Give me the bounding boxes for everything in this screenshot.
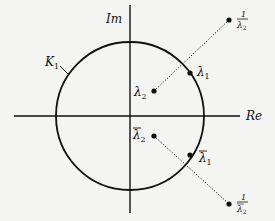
svg-text:λ2: λ2 [236, 204, 247, 215]
point-inv-lambda2 [226, 17, 231, 22]
point-lambda1-conj [187, 152, 192, 157]
svg-text:1: 1 [241, 193, 246, 202]
inv-lambda2-conj-label: 1 λ2 [236, 193, 248, 215]
point-lambda1 [187, 70, 192, 75]
lambda2-label: λ2 [133, 85, 147, 101]
point-inv-lambda2-conj [226, 201, 231, 206]
svg-text:λ2: λ2 [236, 20, 247, 31]
k1-leader-line [60, 66, 68, 74]
circle-label: K1 [44, 55, 59, 71]
inv-lambda2-label: 1 λ2 [236, 10, 248, 31]
complex-plane-diagram: Re Im K1 λ2 λ1 λ2 λ1 1 λ2 1 λ2 [0, 0, 275, 221]
lambda1-conj-label: λ1 [198, 151, 212, 167]
point-lambda2-conj [151, 133, 156, 138]
lambda1-label: λ1 [196, 65, 210, 81]
real-axis-label: Re [245, 109, 262, 123]
imaginary-axis-label: Im [105, 12, 122, 26]
lambda2-conj-label: λ2 [132, 128, 146, 144]
upper-dotted-ray [154, 20, 229, 91]
lower-dotted-ray [154, 136, 229, 204]
svg-text:1: 1 [241, 10, 246, 19]
point-lambda2 [151, 88, 156, 93]
